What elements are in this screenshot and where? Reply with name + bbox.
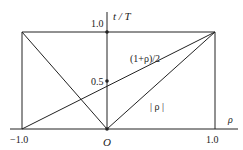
tick-origin: O (103, 136, 111, 148)
label-line: (1+ρ)/2 (130, 53, 160, 65)
tick-x-right: 1.0 (206, 134, 219, 145)
y-axis-label: t / T (113, 10, 132, 22)
tick-y-one: 1.0 (91, 18, 104, 29)
x-axis-label: ρ (227, 114, 233, 125)
line-half-one-plus-rho (22, 32, 215, 129)
point-1 (105, 30, 109, 34)
label-abs: | ρ | (150, 101, 164, 112)
diagram: t / T ρ 1.0 0.5 −1.0 O 1.0 (1+ρ)/2 | ρ | (0, 0, 243, 150)
tick-x-left: −1.0 (10, 134, 28, 145)
point-origin (105, 127, 109, 131)
line-abs-rho-right (107, 32, 215, 129)
tick-y-half: 0.5 (91, 76, 104, 87)
point-half (105, 79, 109, 83)
diagram-svg: t / T ρ 1.0 0.5 −1.0 O 1.0 (1+ρ)/2 | ρ | (0, 0, 243, 150)
